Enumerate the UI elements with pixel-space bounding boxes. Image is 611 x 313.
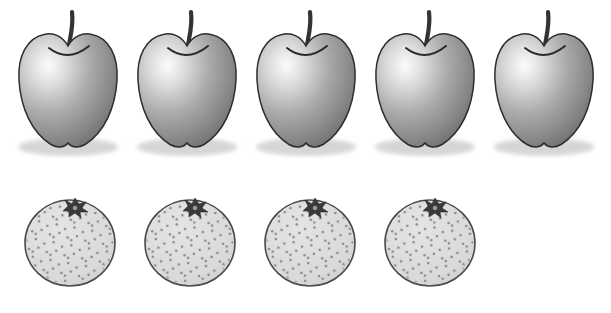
- orange-calyx-center: [433, 206, 437, 210]
- apple-illustration-3: [250, 6, 362, 158]
- apple-illustration-1: [12, 6, 124, 158]
- orange-calyx-center: [313, 206, 317, 210]
- apple-body: [376, 34, 474, 147]
- apple-illustration-4: [369, 6, 481, 158]
- apple-body: [257, 34, 355, 147]
- apple-illustration-2: [131, 6, 243, 158]
- apple-body: [495, 34, 593, 147]
- orange-illustration-2: [142, 197, 238, 291]
- orange-illustration-1: [22, 197, 118, 291]
- apples-row: [12, 6, 600, 158]
- orange-illustration-3: [262, 197, 358, 291]
- apple-illustration-5: [488, 6, 600, 158]
- illustration-canvas: [0, 0, 611, 313]
- orange-calyx-center: [193, 206, 197, 210]
- apple-body: [138, 34, 236, 147]
- orange-illustration-4: [382, 197, 478, 291]
- oranges-row: [22, 197, 478, 291]
- orange-calyx-center: [73, 206, 77, 210]
- apple-body: [19, 34, 117, 147]
